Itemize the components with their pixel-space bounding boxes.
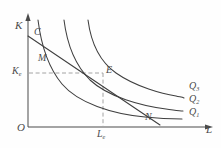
guide-lines-group	[29, 73, 103, 126]
x-axis-label: L	[206, 124, 212, 135]
x-tick-subscript: e	[103, 133, 106, 140]
x-tick-label-le: Le	[97, 129, 105, 139]
origin-label: O	[17, 122, 25, 133]
y-tick-label-ke: Ke	[12, 66, 21, 76]
figure-container: K L O Ke Le C M E N Q3 Q2 Q1	[0, 0, 221, 148]
isoquant-q2-curve	[64, 20, 183, 111]
point-label-e: E	[106, 65, 112, 75]
isoquant-label-q2: Q2	[189, 94, 199, 104]
y-axis-label: K	[15, 20, 22, 31]
point-label-n: N	[145, 112, 152, 122]
isocost-line	[28, 36, 160, 125]
y-axis-arrow-icon	[25, 13, 30, 21]
x-tick-base: L	[97, 128, 103, 139]
point-label-c: C	[34, 27, 41, 37]
isoquant-label-q1: Q1	[189, 107, 199, 117]
point-label-m: M	[38, 53, 46, 63]
y-tick-subscript: e	[19, 70, 22, 77]
isocost-line-group	[28, 36, 160, 125]
isoquant-q3-subscript: 3	[196, 85, 199, 92]
isoquant-q1-subscript: 1	[196, 111, 199, 118]
isoquant-q2-subscript: 2	[196, 98, 199, 105]
y-tick-base: K	[12, 65, 19, 76]
isoquant-label-q3: Q3	[189, 81, 199, 91]
